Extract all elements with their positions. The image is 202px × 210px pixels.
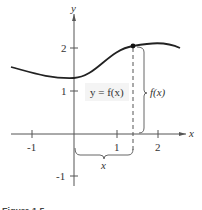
x-tick-label: 1 <box>114 141 120 153</box>
fx-brace-label: f(x) <box>150 86 166 99</box>
y-tick-label: 1 <box>61 85 67 97</box>
y-tick-label: -1 <box>56 170 65 182</box>
horizontal-brace <box>75 148 133 159</box>
y-tick-label: 2 <box>61 42 67 54</box>
figure-caption: Figure 1.5 <box>2 206 45 210</box>
function-curve <box>11 43 180 78</box>
marked-point <box>131 44 136 49</box>
y-axis-arrow-icon <box>72 14 76 21</box>
x-brace-label: x <box>100 159 106 171</box>
vertical-brace <box>137 47 147 133</box>
x-axis-arrow-icon <box>179 132 186 136</box>
function-graph: -1 1 2 2 1 -1 y x f(x) x y = f(x) Figure… <box>0 0 202 210</box>
function-label: y = f(x) <box>90 86 124 99</box>
x-tick-label: -1 <box>27 141 36 153</box>
y-axis-label: y <box>70 2 76 14</box>
x-axis-label: x <box>188 127 194 139</box>
x-tick-label: 2 <box>155 141 161 153</box>
